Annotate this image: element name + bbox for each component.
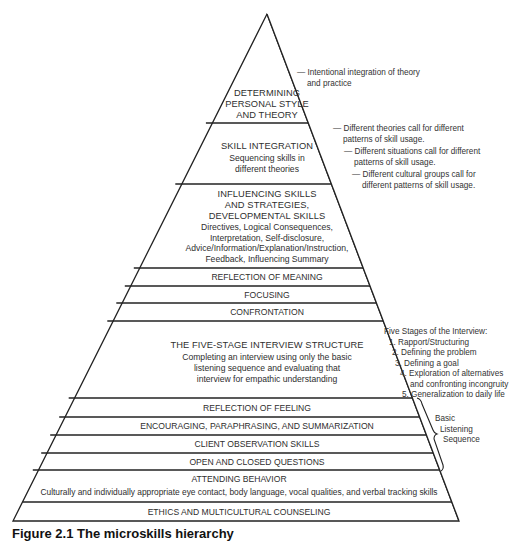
tier-confrontation: CONFRONTATION — [230, 307, 304, 318]
tier-encouraging: ENCOURAGING, PARAPHRASING, AND SUMMARIZA… — [140, 421, 374, 432]
annotation-different-situations: — Different situations call for differen… — [344, 147, 480, 168]
tier-five-stage-heading: THE FIVE-STAGE INTERVIEW STRUCTURE — [170, 340, 363, 351]
figure-caption: Figure 2.1 The microskills hierarchy — [12, 526, 234, 541]
tier-client-observation: CLIENT OBSERVATION SKILLS — [195, 439, 320, 450]
tier-skill-integration-heading: SKILL INTEGRATION — [221, 141, 313, 152]
tier-reflection-of-feeling: REFLECTION OF FEELING — [203, 403, 311, 414]
tier-attending-heading: ATTENDING BEHAVIOR — [191, 474, 286, 485]
tier-skill-integration-detail: Sequencing skills in different theories — [229, 153, 304, 175]
tier-influencing-detail: Directives, Logical Consequences, Interp… — [186, 222, 349, 264]
tier-influencing-heading: INFLUENCING SKILLS AND STRATEGIES, DEVEL… — [209, 189, 326, 222]
tier-questions: OPEN AND CLOSED QUESTIONS — [189, 457, 324, 468]
tier-five-stage-detail: Completing an interview using only the b… — [182, 352, 352, 385]
tier-reflection-of-meaning: REFLECTION OF MEANING — [211, 272, 322, 283]
annotation-different-theories: — Different theories call for different … — [333, 124, 464, 145]
tier-focusing: FOCUSING — [244, 290, 289, 301]
annotation-different-cultural-groups: — Different cultural groups call for dif… — [352, 170, 476, 191]
annotation-intentional-integration: — Intentional integration of theory and … — [297, 68, 420, 89]
tier-personal-style-heading: DETERMINING PERSONAL STYLE AND THEORY — [225, 88, 309, 121]
tier-ethics: ETHICS AND MULTICULTURAL COUNSELING — [148, 507, 331, 518]
annotation-basic-listening-sequence: Basic Listening Sequence — [435, 414, 480, 446]
tier-attending-detail: Culturally and individually appropriate … — [40, 487, 437, 498]
annotation-five-stages: Five Stages of the Interview: 1. Rapport… — [384, 327, 508, 401]
